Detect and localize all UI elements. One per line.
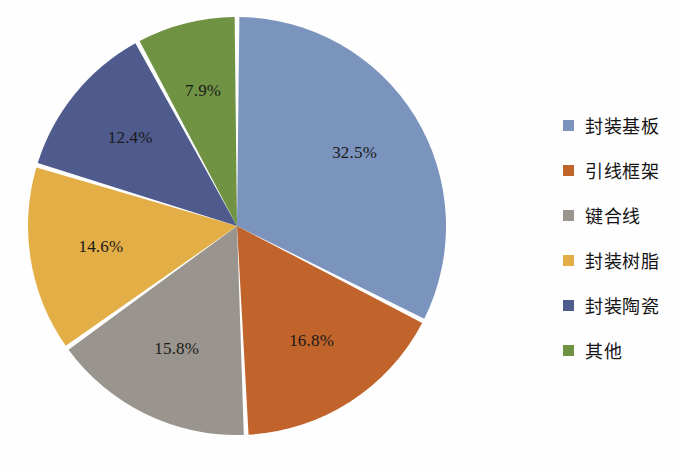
legend-item[interactable]: 封装基板 [563, 112, 675, 138]
legend-item[interactable]: 其他 [563, 337, 675, 363]
pie-data-label: 14.6% [78, 237, 123, 256]
legend-swatch-icon [563, 210, 574, 221]
pie-data-label: 15.8% [154, 339, 199, 358]
legend-item-label: 引线框架 [585, 157, 659, 183]
legend-item-label: 封装基板 [585, 112, 659, 138]
pie-data-label: 32.5% [332, 143, 377, 162]
legend: 封装基板引线框架键合线封装树脂封装陶瓷其他 [563, 112, 675, 382]
legend-item[interactable]: 键合线 [563, 202, 675, 228]
pie-chart-figure: 32.5%16.8%15.8%14.6%12.4%7.9% 封装基板引线框架键合… [0, 0, 680, 470]
legend-swatch-icon [563, 120, 574, 131]
legend-swatch-icon [563, 345, 574, 356]
legend-item-label: 其他 [585, 337, 622, 363]
legend-swatch-icon [563, 165, 574, 176]
legend-item[interactable]: 引线框架 [563, 157, 675, 183]
pie-data-label: 7.9% [185, 81, 221, 100]
legend-swatch-icon [563, 255, 574, 266]
legend-item[interactable]: 封装树脂 [563, 247, 675, 273]
pie-data-label: 12.4% [108, 128, 153, 147]
legend-item-label: 封装树脂 [585, 247, 659, 273]
pie-chart-svg: 32.5%16.8%15.8%14.6%12.4%7.9% [27, 12, 447, 440]
legend-item-label: 键合线 [585, 202, 641, 228]
figure-caption [0, 458, 680, 470]
pie-chart-plot-area: 32.5%16.8%15.8%14.6%12.4%7.9% [27, 12, 447, 440]
legend-item[interactable]: 封装陶瓷 [563, 292, 675, 318]
pie-slice-group [28, 17, 446, 435]
pie-data-label: 16.8% [289, 331, 334, 350]
legend-swatch-icon [563, 300, 574, 311]
legend-item-label: 封装陶瓷 [585, 292, 659, 318]
